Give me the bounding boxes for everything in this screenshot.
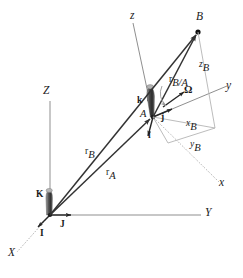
vector-rB-label: rB — [85, 141, 95, 161]
axis-Z-label: Z — [43, 85, 49, 97]
coord-xB-subscript: B — [190, 121, 196, 132]
vector-rA-label: rA — [106, 162, 116, 182]
axis-X-label: X — [8, 247, 15, 259]
axis-x-label: x — [219, 177, 224, 189]
unit-i-label: i — [148, 131, 151, 141]
coord-yB-label: yB — [190, 134, 201, 154]
point-A-label: A — [140, 109, 146, 120]
vector-rBA-subscript: B/A — [172, 77, 188, 88]
diagram-canvas — [0, 0, 243, 278]
kinematics-diagram: X Y Z z y x A B I J K i j k Ω rB rA rB/A… — [0, 0, 243, 278]
axis-z-label: z — [130, 10, 134, 22]
vector-rA-subscript: A — [109, 170, 115, 181]
coord-zB-label: zB — [199, 54, 209, 74]
unit-I-label: I — [40, 229, 44, 239]
coord-yB-subscript: B — [194, 142, 200, 153]
vector-rB-arrow — [50, 35, 196, 215]
unit-J-label: J — [60, 220, 65, 230]
axis-y-label: y — [226, 80, 231, 92]
moving-frame-axes — [133, 23, 227, 182]
unit-k-label: k — [137, 96, 142, 106]
coord-zB-line — [198, 32, 215, 128]
vector-rA-arrow — [50, 119, 150, 215]
omega-arrow — [163, 92, 184, 107]
point-B-label: B — [196, 11, 203, 23]
unit-j-label: j — [161, 113, 164, 123]
axis-Y-label: Y — [205, 207, 211, 219]
position-vectors — [50, 29, 201, 215]
vector-rB-subscript: B — [88, 149, 94, 160]
unit-I-arrow — [38, 215, 50, 227]
coord-xB-label: xB — [186, 113, 197, 133]
unit-K-label: K — [36, 190, 43, 200]
vector-rBA-label: rB/A — [169, 69, 188, 89]
coord-zB-subscript: B — [203, 62, 209, 73]
